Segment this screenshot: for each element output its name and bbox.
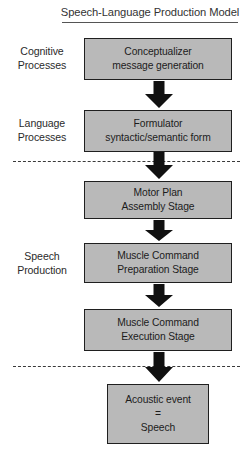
stage-box-line-1: Formulator bbox=[134, 117, 183, 131]
arrow-muscle-preparation-to-muscle-execution bbox=[142, 284, 176, 308]
title-underline bbox=[62, 22, 238, 23]
stage-box-line-2: = bbox=[155, 407, 161, 421]
dashed-separator-execution-acoustic bbox=[13, 366, 240, 367]
side-label-line-2: Processes bbox=[2, 130, 82, 144]
stage-box-line-2: Execution Stage bbox=[121, 330, 195, 344]
stage-box-line-1: Acoustic event bbox=[125, 393, 191, 407]
stage-box-line-1: Muscle Command bbox=[117, 316, 199, 330]
arrow-formulator-to-motor-plan bbox=[142, 152, 176, 180]
stage-box-line-3: Speech bbox=[141, 421, 175, 435]
arrow-muscle-execution-to-acoustic-event bbox=[142, 352, 176, 383]
side-label-cognitive-processes: Cognitive Processes bbox=[2, 44, 82, 72]
stage-box-motor-plan-assembly: Motor Plan Assembly Stage bbox=[84, 181, 232, 219]
stage-box-acoustic-event-speech: Acoustic event = Speech bbox=[107, 384, 209, 444]
dashed-separator-language-motor bbox=[13, 161, 240, 162]
stage-box-formulator: Formulator syntactic/semantic form bbox=[84, 110, 232, 152]
side-label-line-1: Language bbox=[2, 116, 82, 130]
side-label-language-processes: Language Processes bbox=[2, 116, 82, 144]
speech-language-production-diagram: Speech-Language Production Model Cogniti… bbox=[0, 0, 249, 454]
stage-box-line-1: Motor Plan bbox=[134, 186, 183, 200]
stage-box-conceptualizer: Conceptualizer message generation bbox=[84, 38, 232, 80]
stage-box-line-1: Conceptualizer bbox=[124, 45, 191, 59]
stage-box-line-2: message generation bbox=[112, 59, 204, 73]
side-label-line-2: Processes bbox=[2, 58, 82, 72]
stage-box-line-1: Muscle Command bbox=[117, 249, 199, 263]
stage-box-muscle-command-execution: Muscle Command Execution Stage bbox=[84, 309, 232, 351]
side-label-line-2: Production bbox=[2, 263, 82, 277]
stage-box-line-2: syntactic/semantic form bbox=[105, 131, 210, 145]
arrow-motor-plan-to-muscle-preparation bbox=[142, 220, 176, 242]
stage-box-muscle-command-preparation: Muscle Command Preparation Stage bbox=[84, 243, 232, 283]
stage-box-line-2: Assembly Stage bbox=[121, 200, 194, 214]
arrow-conceptualizer-to-formulator bbox=[142, 81, 176, 109]
side-label-line-1: Cognitive bbox=[2, 44, 82, 58]
side-label-speech-production: Speech Production bbox=[2, 249, 82, 277]
side-label-line-1: Speech bbox=[2, 249, 82, 263]
stage-box-line-2: Preparation Stage bbox=[117, 263, 198, 277]
diagram-title: Speech-Language Production Model bbox=[60, 6, 240, 18]
